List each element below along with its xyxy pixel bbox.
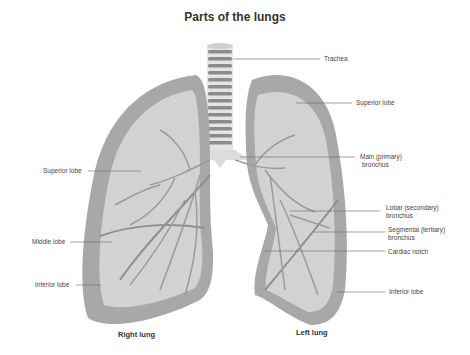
label-right-superior-lobe: Superior lobe (43, 167, 82, 175)
label-right-lung: Right lung (118, 330, 155, 339)
label-right-middle-lobe: Middle lobe (32, 238, 65, 246)
label-lobar-bronchus-2: bronchus (386, 212, 413, 220)
left-lung-icon (235, 75, 347, 325)
label-main-bronchus-2: bronchus (362, 161, 389, 169)
label-left-superior-lobe: Superior lobe (356, 99, 395, 107)
lungs-illustration (0, 0, 470, 355)
label-cardiac-notch: Cardiac notch (388, 248, 428, 256)
right-lung-icon (82, 75, 213, 324)
label-trachea: Trachea (324, 55, 348, 63)
label-segmental-bronchus-2: bronchus (388, 234, 415, 242)
label-left-lung: Left lung (296, 328, 328, 337)
label-main-bronchus-1: Main (primary) (360, 153, 402, 161)
label-left-inferior-lobe: Inferior lobe (389, 288, 423, 296)
label-right-inferior-lobe: Inferior lobe (35, 281, 69, 289)
label-segmental-bronchus-1: Segmental (tertiary) (388, 226, 445, 234)
label-lobar-bronchus-1: Lobar (secondary) (386, 204, 439, 212)
